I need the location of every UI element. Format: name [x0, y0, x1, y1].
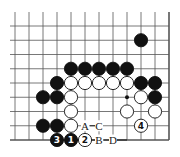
- stone-shape: [64, 119, 77, 132]
- stone-shape: [134, 76, 147, 89]
- stone-shape: [92, 76, 105, 89]
- black-stone: [148, 76, 161, 89]
- black-stone: [148, 91, 161, 104]
- point-label-d: D: [109, 134, 117, 146]
- white-stone: [120, 76, 133, 89]
- white-stone: [106, 76, 119, 89]
- white-stone-move-4: 4: [134, 119, 147, 132]
- point-label-b: B: [95, 134, 102, 146]
- white-stone: [148, 105, 161, 118]
- move-number: 1: [68, 135, 74, 145]
- stone-shape: [106, 76, 119, 89]
- stone-shape: [78, 76, 91, 89]
- white-stone: [120, 105, 133, 118]
- stone-shape: [92, 62, 105, 75]
- white-stone: [92, 76, 105, 89]
- black-stone: [36, 91, 49, 104]
- stone-shape: [148, 76, 161, 89]
- stone-shape: [148, 91, 161, 104]
- white-stone-move-2: 2: [78, 133, 91, 146]
- white-stone: [64, 76, 77, 89]
- stone-shape: [120, 76, 133, 89]
- black-stone: [64, 62, 77, 75]
- white-stone: [64, 119, 77, 132]
- stone-shape: [36, 91, 49, 104]
- black-stone: [134, 34, 147, 47]
- black-stone: [50, 91, 63, 104]
- move-number: 4: [138, 121, 144, 131]
- black-stone: [106, 62, 119, 75]
- white-stone: [64, 91, 77, 104]
- stone-shape: [78, 62, 91, 75]
- stone-shape: [134, 91, 147, 104]
- point-label-c: C: [95, 120, 102, 132]
- stone-shape: [36, 119, 49, 132]
- black-stone: [50, 76, 63, 89]
- white-stone: [134, 91, 147, 104]
- stone-shape: [64, 76, 77, 89]
- white-stone: [64, 105, 77, 118]
- black-stone: [36, 119, 49, 132]
- black-stone: [50, 119, 63, 132]
- stone-shape: [106, 62, 119, 75]
- stone-shape: [120, 105, 133, 118]
- stone-shape: [50, 119, 63, 132]
- black-stone-move-1: 1: [64, 133, 77, 146]
- stone-shape: [64, 105, 77, 118]
- black-stone: [120, 62, 133, 75]
- black-stone: [78, 62, 91, 75]
- stone-shape: [50, 76, 63, 89]
- star-points: [125, 95, 129, 99]
- point-label-a: A: [81, 120, 89, 132]
- stone-shape: [64, 91, 77, 104]
- stone-shape: [134, 34, 147, 47]
- move-number: 3: [54, 135, 60, 145]
- white-stone: [78, 76, 91, 89]
- stone-shape: [120, 62, 133, 75]
- star-point: [125, 95, 129, 99]
- go-board: ACBD 4312: [0, 0, 180, 157]
- black-stone: [134, 76, 147, 89]
- stone-shape: [50, 91, 63, 104]
- stone-shape: [148, 105, 161, 118]
- stone-shape: [64, 62, 77, 75]
- move-number: 2: [82, 135, 88, 145]
- black-stone: [92, 62, 105, 75]
- black-stone-move-3: 3: [50, 133, 63, 146]
